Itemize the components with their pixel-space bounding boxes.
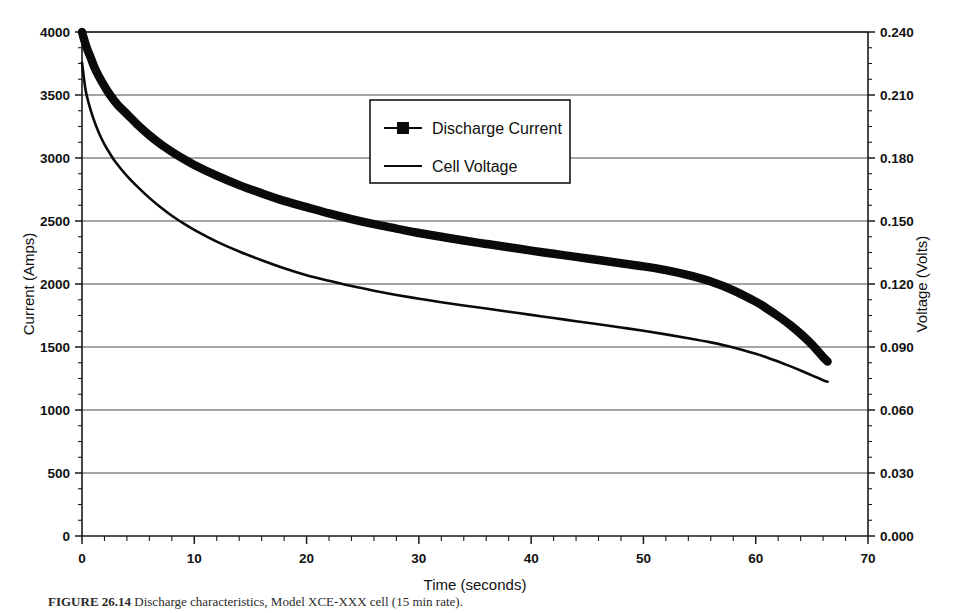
- x-tick-label: 60: [748, 551, 763, 566]
- x-axis-title: Time (seconds): [424, 576, 527, 593]
- figure-container: 050010001500200025003000350040000.0000.0…: [0, 0, 958, 613]
- y-tick-label: 3500: [40, 88, 70, 103]
- y-tick-label: 500: [47, 466, 70, 481]
- y-axis-title: Current (Amps): [20, 233, 37, 336]
- y-tick-label: 1500: [40, 340, 70, 355]
- y-tick-label: 4000: [40, 25, 70, 40]
- legend-square-marker-icon: [397, 122, 409, 134]
- x-tick-label: 20: [299, 551, 314, 566]
- y2-tick-label: 0.180: [880, 151, 914, 166]
- y-tick-label: 2500: [40, 214, 70, 229]
- discharge-characteristics-chart: 050010001500200025003000350040000.0000.0…: [0, 0, 958, 613]
- x-tick-label: 30: [411, 551, 426, 566]
- y-tick-label: 1000: [40, 403, 70, 418]
- y2-tick-label: 0.090: [880, 340, 914, 355]
- x-tick-label: 0: [78, 551, 86, 566]
- figure-caption-label: FIGURE 26.14: [48, 594, 131, 609]
- data-series: [82, 32, 828, 382]
- x-tick-label: 70: [860, 551, 875, 566]
- y2-tick-label: 0.240: [880, 25, 914, 40]
- x-tick-label: 50: [636, 551, 651, 566]
- y2-axis-title: Voltage (Volts): [913, 236, 930, 333]
- figure-caption: FIGURE 26.14 Discharge characteristics, …: [48, 594, 948, 610]
- figure-caption-text: Discharge characteristics, Model XCE-XXX…: [134, 594, 463, 609]
- y2-tick-label: 0.000: [880, 529, 914, 544]
- x-tick-label: 40: [524, 551, 539, 566]
- y-tick-label: 3000: [40, 151, 70, 166]
- y2-tick-label: 0.120: [880, 277, 914, 292]
- series-discharge-current: [82, 32, 828, 361]
- y2-tick-label: 0.030: [880, 466, 914, 481]
- y-tick-label: 0: [62, 529, 70, 544]
- gridlines: [82, 32, 868, 473]
- legend-label-discharge-current[interactable]: Discharge Current: [432, 120, 562, 137]
- x-tick-label: 10: [187, 551, 202, 566]
- y2-tick-label: 0.210: [880, 88, 914, 103]
- legend-label-cell-voltage[interactable]: Cell Voltage: [432, 158, 517, 175]
- y-tick-label: 2000: [40, 277, 70, 292]
- axis-titles: Current (Amps)Voltage (Volts)Time (secon…: [20, 233, 930, 593]
- chart-legend[interactable]: Discharge CurrentCell Voltage: [370, 100, 570, 183]
- y2-tick-label: 0.150: [880, 214, 914, 229]
- y2-tick-label: 0.060: [880, 403, 914, 418]
